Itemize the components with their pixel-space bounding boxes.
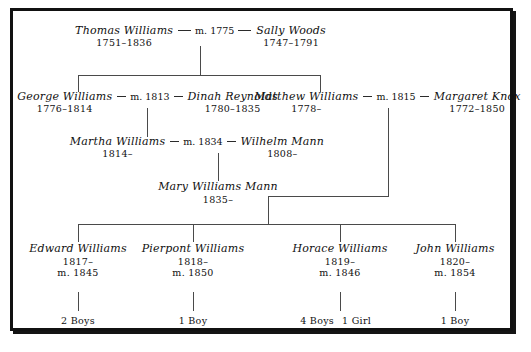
person-matthew-williams: Matthew Williams 1778– [254,90,358,114]
connector-gen5-sibling-bus [78,224,455,225]
dash-icon [238,30,251,31]
person-name: Sally Woods [256,24,326,37]
family-tree-diagram: Thomas Williams 1751–1836 m. 1775 Sally … [0,0,531,352]
person-name: Margaret Knox [434,90,521,103]
person-sally-woods: Sally Woods 1747–1791 [256,24,326,48]
marriage-joiner: m. 1813 [112,91,187,102]
person-name: Matthew Williams [254,90,358,103]
connector-gen2-sibling-bus [78,75,321,76]
connector-drop-to-pierpont [193,224,194,242]
connector-drop-to-john [455,224,456,242]
connector-horace-to-offspring [340,292,341,311]
offspring-horace-girls: 1 Girl [342,315,386,326]
person-dates: 1818– [123,256,263,267]
person-john-williams: John Williams 1820– m. 1854 [385,243,525,278]
person-dates: 1747–1791 [256,37,326,48]
person-mary-williams-mann: Mary Williams Mann 1835– [138,181,298,205]
person-name: Pierpont Williams [123,243,263,256]
dash-icon [178,30,191,31]
dash-icon [363,96,372,97]
dash-icon [420,96,429,97]
person-name: Thomas Williams [75,24,173,37]
offspring-john: 1 Boy [415,315,495,326]
person-name: John Williams [385,243,525,256]
person-dates: 1778– [254,103,358,114]
union-george-dinah: George Williams 1776–1814 m. 1813 Dinah … [15,90,280,114]
person-martha-williams: Martha Williams 1814– [70,135,165,159]
person-dates: 1808– [241,148,325,159]
union-thomas-sally: Thomas Williams 1751–1836 m. 1775 Sally … [0,24,401,48]
connector-gen1-marriage-drop [200,46,201,75]
dash-icon [117,96,126,97]
marriage-joiner: m. 1775 [173,25,256,36]
marriage-year: m. 1834 [183,136,222,147]
offspring-edward: 2 Boys [38,315,118,326]
person-name: Martha Williams [70,135,165,148]
connector-matthew-descent [388,108,389,196]
person-dates: 1772–1850 [434,103,521,114]
person-marriage-year: m. 1854 [385,267,525,278]
person-pierpont-williams: Pierpont Williams 1818– m. 1850 [123,243,263,278]
person-thomas-williams: Thomas Williams 1751–1836 [75,24,173,48]
marriage-year: m. 1775 [195,25,234,36]
union-martha-wilhelm: Martha Williams 1814– m. 1834 Wilhelm Ma… [62,135,332,159]
connector-edward-to-offspring [78,292,79,311]
person-name: Wilhelm Mann [241,135,325,148]
dash-icon [174,96,183,97]
person-dates: 1820– [385,256,525,267]
union-matthew-margaret: Matthew Williams 1778– m. 1815 Margaret … [265,90,510,114]
person-name: Mary Williams Mann [138,181,298,194]
marriage-joiner: m. 1834 [165,136,240,147]
person-wilhelm-mann: Wilhelm Mann 1808– [241,135,325,159]
connector-pierpont-to-offspring [193,292,194,311]
person-margaret-knox: Margaret Knox 1772–1850 [434,90,521,114]
connector-drop-to-horace [340,224,341,242]
dash-icon [170,141,179,142]
marriage-year: m. 1815 [376,91,415,102]
connector-john-to-offspring [455,292,456,311]
dash-icon [227,141,236,142]
diagram-frame [10,8,513,331]
person-dates: 1776–1814 [17,103,112,114]
marriage-year: m. 1813 [130,91,169,102]
connector-drop-to-edward [78,224,79,242]
offspring-horace-boys: 4 Boys [290,315,334,326]
person-dates: 1814– [70,148,165,159]
person-dates: 1751–1836 [75,37,173,48]
person-george-williams: George Williams 1776–1814 [17,90,112,114]
person-name: George Williams [17,90,112,103]
marriage-joiner: m. 1815 [358,91,433,102]
offspring-pierpont: 1 Boy [153,315,233,326]
person-dates: 1835– [138,194,298,205]
person-marriage-year: m. 1850 [123,267,263,278]
